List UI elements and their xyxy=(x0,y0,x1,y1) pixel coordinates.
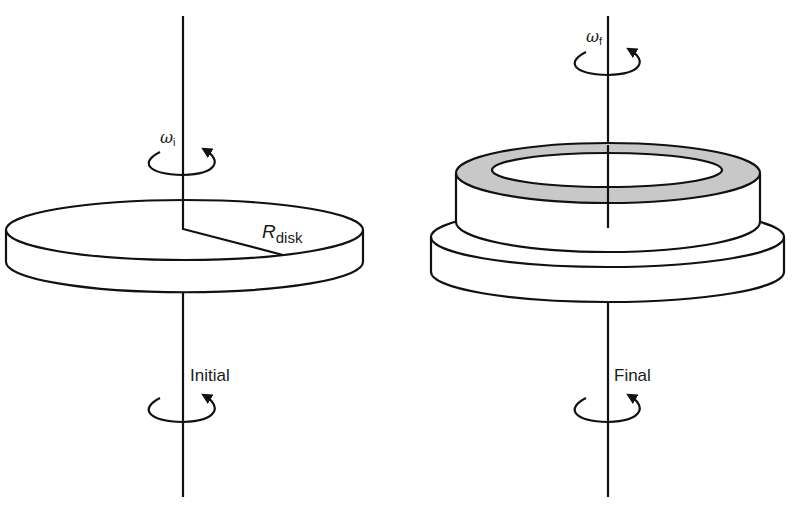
omega-subscript: i xyxy=(173,136,175,148)
radius-symbol: R xyxy=(262,221,276,242)
omega-symbol: ω xyxy=(160,128,173,147)
final-state-label: Final xyxy=(614,366,651,386)
rotation-arrow-icon xyxy=(149,150,215,175)
radius-subscript: disk xyxy=(276,229,303,246)
initial-panel xyxy=(6,16,363,497)
rotation-arrow-icon xyxy=(149,396,215,422)
omega-final-label: ωf xyxy=(586,27,602,47)
radius-label: Rdisk xyxy=(262,221,302,246)
omega-subscript: f xyxy=(599,35,602,47)
omega-symbol: ω xyxy=(586,27,599,46)
final-panel xyxy=(431,16,784,497)
solid-disk xyxy=(6,200,363,292)
omega-initial-label: ωi xyxy=(160,128,176,148)
initial-state-label: Initial xyxy=(190,366,230,386)
angular-momentum-diagram xyxy=(0,0,795,507)
